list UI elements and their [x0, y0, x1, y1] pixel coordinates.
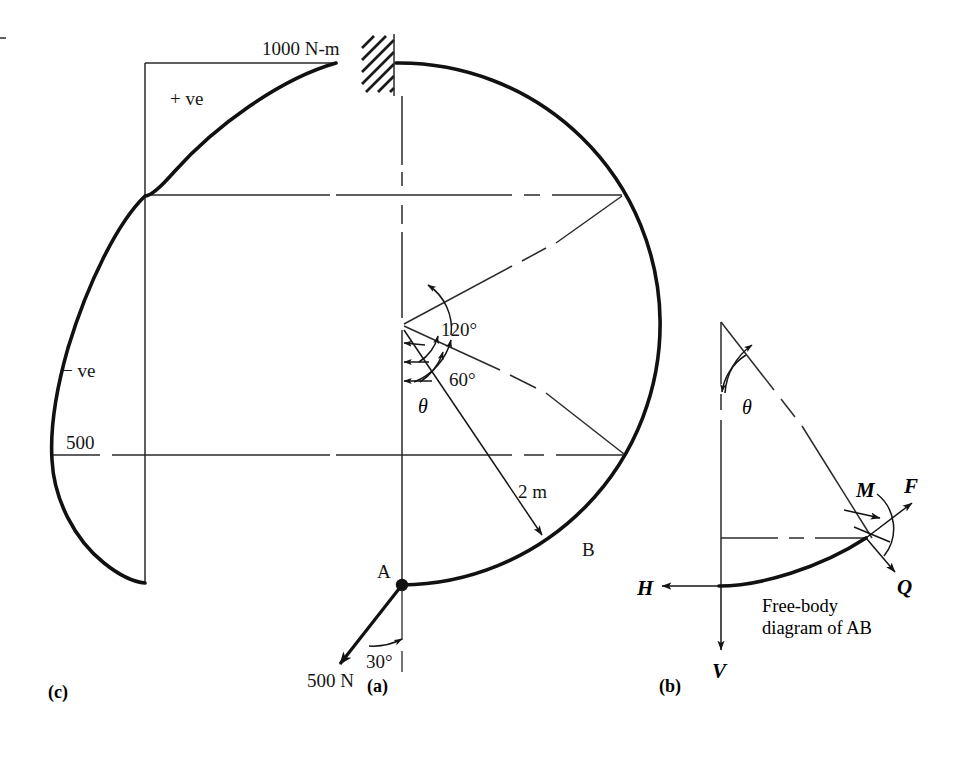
bending-moment-diagram-group: 1000 N-m + ve − ve 500	[52, 38, 340, 583]
radius-60-seg2	[546, 393, 624, 454]
fbd-radius-seg1	[721, 322, 774, 390]
point-a-label: A	[377, 561, 391, 582]
load-arrow-1	[404, 343, 425, 345]
fbd-moment-m-arrow	[844, 510, 880, 518]
fbd-moment-m-tick	[854, 527, 890, 542]
fbd-radius-dash	[781, 399, 795, 417]
force-500n-label: 500 N	[307, 670, 354, 691]
free-body-diagram-group: θ H V M F Q Free-body diagram of AB	[636, 322, 918, 683]
fbd-theta-label: θ	[742, 396, 752, 418]
figure-root: 1000 N-m + ve − ve 500	[0, 0, 968, 777]
angle-arc-30	[369, 639, 402, 646]
bmd-negative-label: − ve	[62, 360, 95, 381]
fbd-f-label: F	[903, 474, 918, 498]
part-label-b: (b)	[659, 676, 681, 697]
bmd-positive-label: + ve	[170, 88, 203, 109]
angle-120-label: 120°	[441, 319, 477, 340]
part-label-a: (a)	[367, 676, 388, 697]
fbd-q-label: Q	[897, 575, 912, 599]
angle-60-label: 60°	[449, 369, 476, 390]
point-b-label: B	[582, 539, 595, 560]
angle-30-label: 30°	[366, 651, 393, 672]
bmd-peak-label: 1000 N-m	[262, 38, 340, 59]
fbd-moment-m-arc	[877, 494, 894, 556]
fbd-h-label: H	[636, 576, 654, 600]
fbd-caption-line1: Free-body	[762, 596, 839, 616]
curved-bar-arc	[396, 63, 660, 585]
fbd-theta-arc-right	[725, 345, 752, 393]
fbd-caption-line2: diagram of AB	[762, 618, 872, 638]
fbd-m-label: M	[855, 478, 876, 502]
loaded-curved-bar-group: 120° 60° θ 2 m B A 500 N 30°	[307, 34, 660, 691]
fbd-v-label: V	[712, 659, 728, 683]
radius-dimension-arrow	[404, 330, 542, 535]
bmd-curve	[52, 63, 336, 583]
radius-2m-label: 2 m	[518, 481, 547, 502]
radius-120-seg2	[556, 196, 622, 243]
fbd-bar-arc-ab	[719, 538, 866, 586]
part-label-c: (c)	[48, 682, 68, 703]
radius-120-dash	[522, 248, 546, 261]
engineering-figure-svg: 1000 N-m + ve − ve 500	[0, 0, 968, 777]
fixed-support-hatching	[362, 34, 394, 96]
radius-120-seg1	[404, 266, 512, 324]
radius-60-dash	[510, 375, 536, 388]
angle-theta-label: θ	[418, 395, 428, 417]
bmd-value-500: 500	[66, 432, 95, 453]
